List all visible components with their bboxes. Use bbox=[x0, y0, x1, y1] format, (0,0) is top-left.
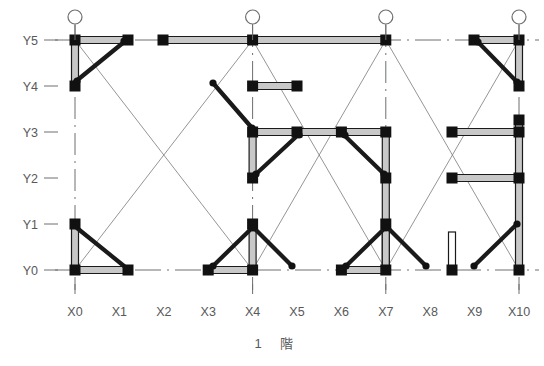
pin-x4-y3b bbox=[248, 124, 255, 131]
x-axis-label-x9: X9 bbox=[467, 305, 482, 319]
y-axis-label-y2: Y2 bbox=[23, 172, 38, 186]
node-x1-y0 bbox=[123, 265, 134, 276]
node-x10-y2 bbox=[514, 173, 525, 184]
y-axis-label-layer: Y5Y4Y3Y2Y1Y0 bbox=[23, 34, 38, 278]
pin-x5-y0 bbox=[288, 262, 295, 269]
diag-x9y5-x10y4 bbox=[478, 42, 517, 82]
x-axis-label-x2: X2 bbox=[156, 305, 171, 319]
x-axis-label-x5: X5 bbox=[289, 305, 304, 319]
node-x9-y0 bbox=[447, 265, 458, 276]
grid-circle-x7 bbox=[379, 10, 393, 24]
pin-x6-y3 bbox=[341, 131, 348, 138]
y-axis-label-y1: Y1 bbox=[23, 218, 38, 232]
pin-x3-y0 bbox=[209, 262, 216, 269]
node-x6-y4 bbox=[292, 81, 303, 92]
grid-circle-x4 bbox=[246, 10, 260, 24]
pin-x4-y2 bbox=[252, 170, 259, 177]
reference-circle-layer bbox=[68, 10, 526, 40]
wall-x9-vertical bbox=[449, 232, 456, 268]
node-layer bbox=[70, 35, 525, 276]
pin-x7-y2 bbox=[380, 170, 387, 177]
node-x10-y3b bbox=[514, 115, 525, 126]
pin-x9-y5 bbox=[474, 38, 481, 45]
y-axis-label-y5: Y5 bbox=[23, 34, 38, 48]
node-x5-y4 bbox=[247, 81, 258, 92]
x-axis-label-layer: X0X1X2X3X4X5X6X7X8X9X10 bbox=[67, 305, 530, 319]
grid-circle-x10 bbox=[512, 10, 526, 24]
y-axis-label-y4: Y4 bbox=[23, 80, 38, 94]
node-x9-y2 bbox=[447, 173, 458, 184]
y-axis-label-y3: Y3 bbox=[23, 126, 38, 140]
diag-x6y0-x7y1 bbox=[346, 228, 385, 266]
x-axis-label-x1: X1 bbox=[112, 305, 127, 319]
node-x0-y0 bbox=[70, 265, 81, 276]
pin-x4-y1 bbox=[249, 224, 256, 231]
x-axis-label-x7: X7 bbox=[378, 305, 393, 319]
diag-x6y3-x7y2 bbox=[345, 136, 384, 174]
floor-unit-label: 階 bbox=[280, 336, 293, 351]
diag-x5y4-x4y3 bbox=[213, 83, 252, 128]
title-layer: 1 階 bbox=[254, 336, 292, 351]
pin-x9-y0 bbox=[470, 262, 477, 269]
pin-x7-y1 bbox=[382, 224, 389, 231]
grid-circle-x0 bbox=[68, 10, 82, 24]
gridline-layer bbox=[44, 25, 539, 294]
x-axis-label-x6: X6 bbox=[334, 305, 349, 319]
x-axis-label-x10: X10 bbox=[508, 305, 530, 319]
pin-x5-y3 bbox=[295, 131, 302, 138]
diag-x5y3-x4y2 bbox=[256, 136, 297, 174]
pin-x10-y4 bbox=[513, 78, 520, 85]
node-x10-y3 bbox=[514, 127, 525, 138]
structural-plan-root: X0X1X2X3X4X5X6X7X8X9X10 Y5Y4Y3Y2Y1Y0 1 階 bbox=[0, 0, 544, 366]
node-x7-y3 bbox=[380, 127, 391, 138]
diag-x0y1-x1y0 bbox=[77, 228, 124, 266]
floor-plan-drawing: X0X1X2X3X4X5X6X7X8X9X10 Y5Y4Y3Y2Y1Y0 1 階 bbox=[0, 0, 544, 366]
diag-x9y0-x10y1 bbox=[474, 224, 517, 266]
x-axis-label-x0: X0 bbox=[67, 305, 82, 319]
diag-x3y0-x4y1 bbox=[213, 228, 252, 266]
pin-x10-y1 bbox=[513, 220, 520, 227]
node-x9-y3 bbox=[447, 127, 458, 138]
node-x3-y5 bbox=[158, 35, 169, 46]
x-axis-label-x3: X3 bbox=[201, 305, 216, 319]
node-x0-y1 bbox=[70, 219, 81, 230]
diag-x0y4-x1y5 bbox=[75, 42, 124, 82]
y-axis-label-y0: Y0 bbox=[23, 264, 38, 278]
wall-layer bbox=[449, 232, 456, 268]
diag-x4y1-x5y0 bbox=[254, 228, 292, 266]
pin-x1-y5 bbox=[120, 37, 127, 44]
pin-x5-y4 bbox=[209, 79, 216, 86]
x-axis-label-x4: X4 bbox=[245, 305, 260, 319]
pin-x8-y0 bbox=[422, 262, 429, 269]
node-x4-y0 bbox=[247, 265, 258, 276]
pin-x0-y4 bbox=[73, 77, 80, 84]
x-axis-label-x8: X8 bbox=[423, 305, 438, 319]
node-x7-y0 bbox=[380, 265, 391, 276]
node-x10-y0 bbox=[514, 265, 525, 276]
floor-number-label: 1 bbox=[254, 336, 261, 351]
pin-x6-y0 bbox=[342, 262, 349, 269]
